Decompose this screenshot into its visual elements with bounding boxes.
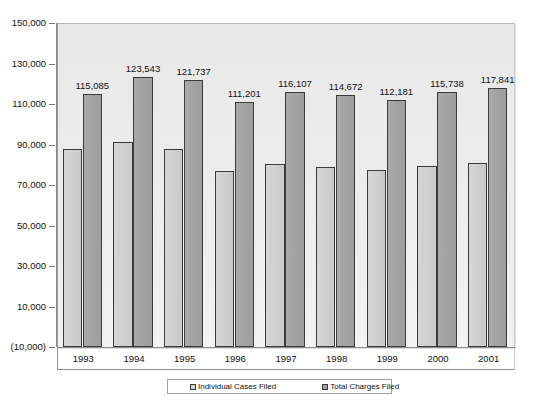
bar-2000-individual-cases xyxy=(417,166,437,347)
y-tick-label: 50,000 xyxy=(17,221,46,231)
bar-1994-individual-cases xyxy=(113,142,133,347)
y-tick-label: 30,000 xyxy=(17,261,46,271)
y-tick-label: 110,000 xyxy=(12,99,46,109)
bar-value-label: 115,738 xyxy=(430,78,464,89)
y-tick-label: (10,000) xyxy=(11,342,46,352)
x-tick-label-2000: 2000 xyxy=(427,353,448,364)
bar-value-label: 112,181 xyxy=(380,86,414,97)
bar-1998-total-charges xyxy=(336,95,356,347)
bar-value-label: 117,841 xyxy=(481,74,515,85)
y-axis: 150,000130,000110,00090,00070,00050,0003… xyxy=(0,0,58,412)
bar-value-label: 114,672 xyxy=(329,81,363,92)
bar-value-label: 111,201 xyxy=(228,88,261,99)
bar-value-label: 116,107 xyxy=(278,78,312,89)
x-tick-label-1994: 1994 xyxy=(123,353,144,364)
bar-value-label: 115,085 xyxy=(76,80,110,91)
chart-legend: Individual Cases Filed Total Charges Fil… xyxy=(167,379,392,394)
y-tick-mark xyxy=(49,104,55,105)
bar-1997-individual-cases xyxy=(265,164,285,347)
x-tick-label-1993: 1993 xyxy=(73,353,94,364)
bar-2001-total-charges xyxy=(488,88,508,347)
x-tick-label-1999: 1999 xyxy=(377,353,398,364)
bar-chart: 150,000130,000110,00090,00070,00050,0003… xyxy=(0,0,535,412)
legend-item-total-charges-filed: Total Charges Filed xyxy=(322,382,399,391)
bar-2000-total-charges xyxy=(437,92,457,347)
y-tick-mark xyxy=(49,185,55,186)
bar-1999-total-charges xyxy=(387,100,407,347)
bar-1996-total-charges xyxy=(235,102,255,347)
bar-1994-total-charges xyxy=(133,77,153,347)
legend-swatch-icon xyxy=(190,384,196,390)
bar-2001-individual-cases xyxy=(468,163,488,347)
y-tick-mark xyxy=(49,145,55,146)
bar-1995-total-charges xyxy=(184,80,204,347)
x-tick-label-1996: 1996 xyxy=(225,353,246,364)
x-tick-label-1995: 1995 xyxy=(174,353,195,364)
bar-1993-total-charges xyxy=(83,94,103,347)
legend-item-individual-cases-filed: Individual Cases Filed xyxy=(190,382,276,391)
bar-value-label: 121,737 xyxy=(176,66,210,77)
bar-value-label: 123,543 xyxy=(126,63,160,74)
bar-1999-individual-cases xyxy=(367,170,387,347)
y-tick-label: 130,000 xyxy=(12,59,46,69)
bar-1998-individual-cases xyxy=(316,167,336,347)
y-tick-mark xyxy=(49,23,55,24)
x-axis: 199319941995199619971998199920002001 xyxy=(57,348,515,370)
bar-1995-individual-cases xyxy=(164,149,184,347)
y-tick-label: 10,000 xyxy=(17,302,46,312)
x-tick-label-2001: 2001 xyxy=(478,353,499,364)
y-tick-mark xyxy=(49,226,55,227)
legend-label: Individual Cases Filed xyxy=(198,382,276,391)
y-tick-mark xyxy=(49,64,55,65)
bar-1997-total-charges xyxy=(285,92,305,347)
y-tick-label: 70,000 xyxy=(17,180,46,190)
y-tick-mark xyxy=(49,266,55,267)
legend-label: Total Charges Filed xyxy=(330,382,399,391)
y-tick-label: 150,000 xyxy=(12,18,46,28)
legend-swatch-icon xyxy=(322,384,328,390)
y-tick-mark xyxy=(49,347,55,348)
x-tick-label-1998: 1998 xyxy=(326,353,347,364)
y-tick-label: 90,000 xyxy=(17,140,46,150)
y-tick-mark xyxy=(49,307,55,308)
bar-1993-individual-cases xyxy=(63,149,83,347)
bar-1996-individual-cases xyxy=(215,171,235,347)
x-tick-label-1997: 1997 xyxy=(275,353,296,364)
